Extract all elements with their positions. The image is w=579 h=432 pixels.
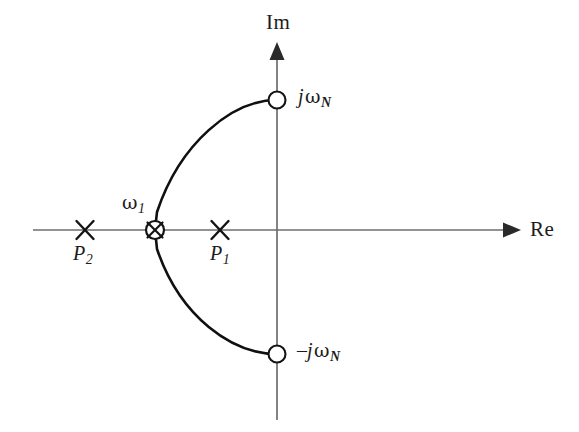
pole-label-p1-base: P (210, 242, 222, 264)
pole-label-p2: P2 (73, 243, 93, 267)
zero-label-negative-jwn: –jωN (297, 340, 340, 364)
real-axis-label: Re (530, 219, 554, 240)
zero-label-negative-omega: ω (314, 339, 330, 361)
pole-label-p2-base: P (73, 242, 85, 264)
pole-label-p2-subscript: 2 (85, 252, 93, 267)
zero-label-negative-subscript: N (330, 349, 341, 364)
zero-label-positive-j: j (298, 85, 305, 107)
zero-label-positive-jwn: jωN (298, 86, 331, 110)
zero-marker-negative-jwn (269, 346, 286, 363)
pole-label-p1-subscript: 1 (222, 252, 230, 267)
pole-label-p1: P1 (210, 243, 230, 267)
zero-marker-positive-jwn (269, 92, 286, 109)
imaginary-axis-label: Im (266, 12, 290, 33)
zero-label-positive-omega: ω (305, 85, 321, 107)
plot-canvas (0, 0, 579, 432)
pole-zero-coincident-marker-omega1 (146, 221, 164, 239)
zero-label-positive-subscript: N (321, 95, 332, 110)
real-axis-arrowhead (503, 223, 521, 238)
locus-arc-upper (155, 100, 277, 230)
zero-label-negative-j: –j (297, 339, 314, 361)
imaginary-axis-arrowhead (270, 42, 285, 60)
omega1-label-omega: ω (122, 191, 138, 213)
pole-zero-plot-figure: Im Re jωN –jωN ω1 P1 P2 (0, 0, 579, 432)
omega1-label-subscript: 1 (138, 201, 146, 216)
omega1-label: ω1 (122, 192, 145, 216)
